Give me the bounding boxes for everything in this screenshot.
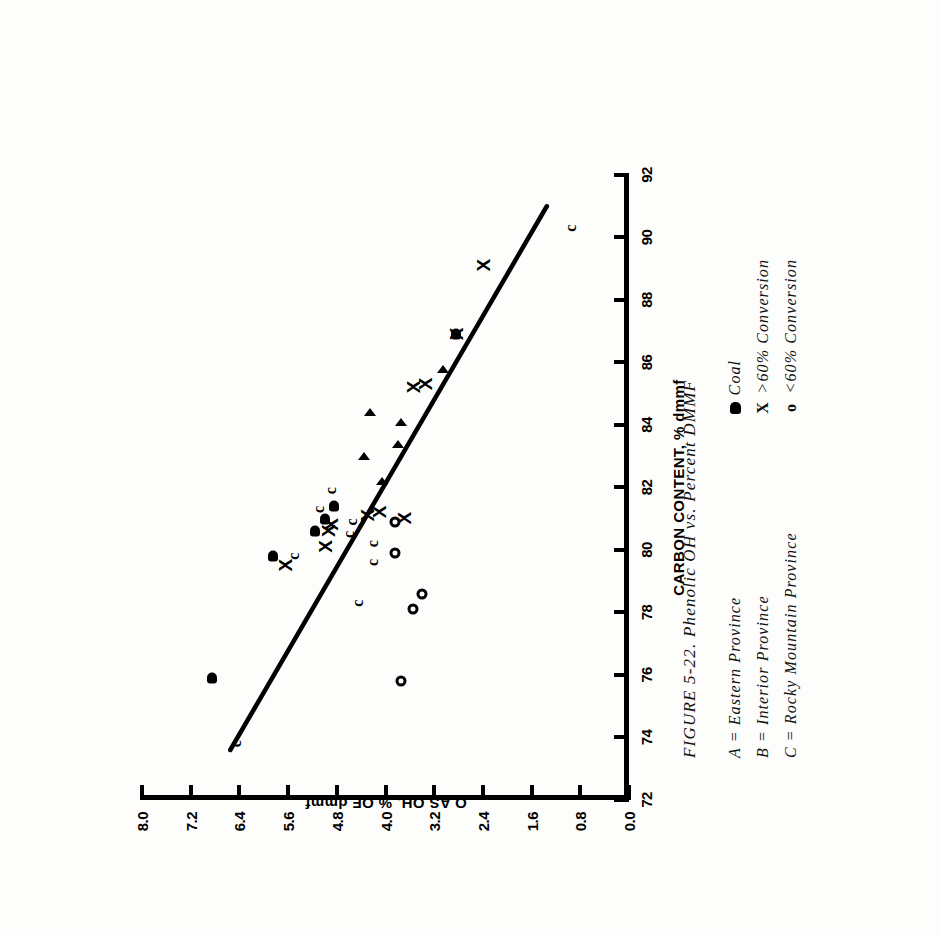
x-tick [614,548,629,552]
data-point-c: c [365,540,381,547]
data-point-c: c [310,505,326,512]
legend-marker-X-icon: X [754,400,772,414]
x-tick [614,610,629,614]
data-point-x: X [446,328,465,340]
scanned-page: 7274767880828486889092 0.00.81.62.43.24.… [0,0,939,935]
data-point-c: c [563,224,579,231]
y-tick [529,785,533,800]
y-tick-label: 5.6 [279,812,296,831]
x-tick-label: 76 [638,667,655,683]
y-tick-label: 0.0 [620,812,637,831]
legend-province-a: A = Eastern Province [726,532,744,758]
legend-symbol-label: >60% Conversion [754,258,772,392]
x-tick-label: 92 [638,167,655,183]
data-point-x: X [315,541,334,553]
x-tick [614,235,629,239]
x-tick [614,423,629,427]
data-point-x: X [473,259,492,271]
y-tick-label: 8.0 [133,812,150,831]
data-point-c: c [286,552,302,559]
legend-province-label: B = Interior Province [754,595,772,758]
legend-symbol-item: Coal [726,258,744,413]
legend-symbol-item: X>60% Conversion [754,258,772,413]
data-point-o [395,675,406,686]
legend-province-c: C = Rocky Mountain Province [782,532,800,758]
data-point-o [407,603,418,614]
data-point-a [358,452,370,460]
data-point-blob [207,672,217,683]
data-point-o [389,547,400,558]
y-tick-label: 0.8 [571,812,588,831]
data-point-x: X [275,559,294,571]
y-tick [627,785,631,800]
data-point-a [394,417,406,425]
x-tick-label: 74 [638,729,655,745]
data-point-a [376,477,388,485]
legend-symbol-label: Coal [726,359,744,395]
data-point-c: c [322,487,338,494]
y-tick-label: 6.4 [230,812,247,831]
x-tick [614,673,629,677]
y-tick-label: 2.4 [474,812,491,831]
y-tick-label: 4.0 [377,812,394,831]
y-tick [237,785,241,800]
scatter-plot: 7274767880828486889092 0.00.81.62.43.24.… [142,175,629,800]
x-tick [614,173,629,177]
x-tick [614,360,629,364]
legend-symbol-list: CoalX>60% Conversiono<60% Conversion [726,258,800,413]
data-point-c: c [350,599,366,606]
figure-rotated-container: 7274767880828486889092 0.00.81.62.43.24.… [120,28,820,908]
data-point-a [437,364,449,372]
caption-and-legend: FIGURE 5-22. Phenolic OH vs. Percent DMM… [680,58,800,758]
data-point-c: c [365,558,381,565]
legend-province-b: B = Interior Province [754,532,772,758]
data-point-x: X [415,378,434,390]
x-tick [614,485,629,489]
x-tick-label: 84 [638,417,655,433]
figure-caption: FIGURE 5-22. Phenolic OH vs. Percent DMM… [680,58,700,758]
legend-marker-o-icon: o [782,400,800,414]
legend-province-label: C = Rocky Mountain Province [782,532,800,758]
legend-province-list: A = Eastern ProvinceB = Interior Provinc… [726,532,800,758]
data-point-a [364,408,376,416]
legend-marker-coal-icon [729,402,740,414]
data-point-blob [328,500,338,511]
x-tick [614,298,629,302]
y-tick [188,785,192,800]
data-point-o [416,588,427,599]
data-point-x: X [369,506,388,518]
y-tick [286,785,290,800]
plot-frame: 7274767880828486889092 0.00.81.62.43.24.… [142,175,629,800]
data-point-c: c [228,740,244,747]
x-tick-label: 86 [638,354,655,370]
data-point-x: X [321,519,340,531]
data-point-o [389,516,400,527]
data-point-c: c [344,518,360,525]
legend-symbol-label: <60% Conversion [782,258,800,392]
x-tick-label: 78 [638,604,655,620]
y-axis-label: O AS OH, % OF dmmf [304,794,466,811]
y-tick [140,785,144,800]
legend-province-label: A = Eastern Province [726,596,744,757]
x-tick-label: 82 [638,479,655,495]
x-tick-label: 80 [638,542,655,558]
x-tick-label: 72 [638,792,655,808]
y-tick [480,785,484,800]
y-tick-label: 4.8 [328,812,345,831]
y-tick [578,785,582,800]
legend-symbol-item: o<60% Conversion [782,258,800,413]
data-point-a [391,439,403,447]
y-tick-label: 3.2 [425,812,442,831]
data-point-c: c [340,530,356,537]
x-tick [614,735,629,739]
y-tick-label: 1.6 [523,812,540,831]
x-tick-label: 90 [638,229,655,245]
legend: A = Eastern ProvinceB = Interior Provinc… [726,58,800,758]
x-tick-label: 88 [638,292,655,308]
trendline [142,175,629,800]
y-tick-label: 7.2 [182,812,199,831]
